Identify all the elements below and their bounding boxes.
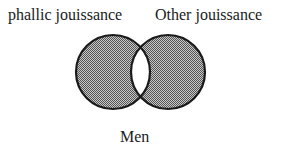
label-phallic-jouissance: phallic jouissance — [8, 7, 122, 23]
venn-diagram: phallic jouissance Other jouissance Men — [0, 0, 286, 157]
label-other-jouissance: Other jouissance — [155, 7, 262, 23]
label-men: Men — [120, 129, 149, 145]
